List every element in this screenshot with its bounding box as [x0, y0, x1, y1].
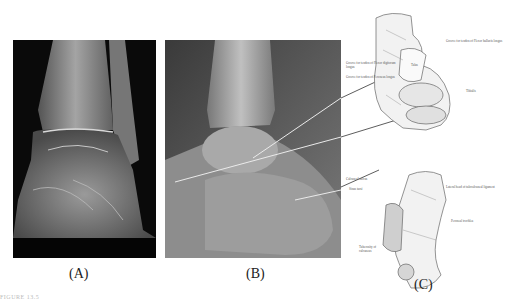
- figure-label: FIGURE 13.5: [0, 294, 39, 300]
- anatomy-talus-calcaneus-drawing: [341, 0, 513, 303]
- drawing-label-lower-1: Calcaneal sulcus: [346, 178, 367, 182]
- drawing-label-center: Talus: [411, 64, 418, 68]
- caption-b: (B): [246, 266, 265, 282]
- drawing-label-right: Tibialis: [466, 90, 476, 94]
- xray-lateral-ankle-image: [165, 40, 341, 258]
- drawing-label-left-2: Groove for tendon of Peroneus longus: [346, 76, 396, 80]
- drawing-label-bottom-left: Tuberosity of calcaneus: [359, 246, 389, 253]
- drawing-label-left-1: Groove for tendon of Flexor digitorum lo…: [346, 62, 396, 69]
- drawing-label-lower-right-1: Lateral head of talocalcaneal ligament: [446, 186, 501, 190]
- drawing-label-lower-right-2: Peroneal trochlea: [451, 220, 473, 224]
- caption-c: (C): [414, 277, 433, 293]
- caption-a: (A): [69, 266, 88, 282]
- xray-panel-b: [165, 40, 341, 258]
- xray-ap-ankle-image: [13, 40, 156, 258]
- drawing-label-lower-2: Sinus tarsi: [349, 188, 362, 192]
- xray-panel-a: [13, 40, 156, 258]
- anatomy-drawing-panel-c: Groove for tendon of Flexor hallucis lon…: [341, 0, 513, 303]
- drawing-label-top-right: Groove for tendon of Flexor hallucis lon…: [446, 40, 506, 44]
